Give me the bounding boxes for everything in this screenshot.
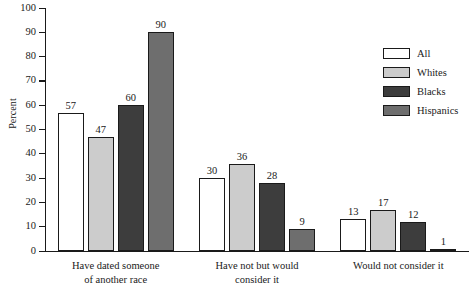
legend-label: All — [417, 48, 430, 59]
y-axis-tick-label: 40 — [6, 148, 36, 158]
bar — [88, 137, 114, 251]
bar — [430, 249, 456, 251]
bar — [58, 113, 84, 252]
bar-value-label: 90 — [142, 19, 180, 30]
bar-value-label: 12 — [394, 209, 432, 220]
x-axis-category-label: Have not but wouldconsider it — [177, 259, 337, 286]
legend-label: Hispanics — [417, 105, 458, 116]
bar-value-label: 9 — [283, 216, 321, 227]
bar-chart: Percent 0102030405060708090100 574760903… — [0, 0, 473, 292]
legend-item: All — [383, 45, 471, 62]
bar-value-label: 47 — [82, 124, 120, 135]
category-label-line: Have not but would — [177, 259, 337, 273]
x-axis-category-label: Have dated someoneof another race — [36, 259, 196, 286]
y-axis-title: Percent — [7, 74, 18, 154]
bar — [118, 105, 144, 251]
bar-value-label: 1 — [424, 236, 462, 247]
legend-item: Blacks — [383, 83, 471, 100]
bar — [400, 222, 426, 251]
y-axis-tick-label: 80 — [6, 51, 36, 61]
bar — [259, 183, 285, 251]
y-axis-tick-label: 60 — [6, 100, 36, 110]
bar-value-label: 13 — [334, 206, 372, 217]
legend-label: Blacks — [417, 86, 446, 97]
legend-item: Hispanics — [383, 102, 471, 119]
bar-value-label: 17 — [364, 197, 402, 208]
bar — [370, 210, 396, 251]
category-label-line: Would not consider it — [318, 259, 473, 273]
y-axis-tick-label: 90 — [6, 27, 36, 37]
legend-swatch — [383, 105, 410, 116]
y-axis-tick-label: 20 — [6, 197, 36, 207]
category-label-line: Have dated someone — [36, 259, 196, 273]
bar — [340, 219, 366, 251]
y-axis-tick-label: 0 — [6, 246, 36, 256]
bar — [229, 164, 255, 251]
legend-swatch — [383, 86, 410, 97]
bar-value-label: 57 — [52, 100, 90, 111]
y-axis-tick-label: 70 — [6, 75, 36, 85]
bar-value-label: 36 — [223, 151, 261, 162]
category-label-line: consider it — [177, 273, 337, 287]
legend: AllWhitesBlacksHispanics — [383, 45, 471, 121]
y-axis-tick-label: 50 — [6, 124, 36, 134]
x-axis-line — [45, 251, 469, 252]
bar-value-label: 60 — [112, 92, 150, 103]
bar — [289, 229, 315, 251]
y-axis-tick-label: 30 — [6, 173, 36, 183]
category-label-line: of another race — [36, 273, 196, 287]
bar — [199, 178, 225, 251]
y-axis-tick-label: 10 — [6, 221, 36, 231]
y-axis-tick-label: 100 — [6, 3, 36, 13]
legend-item: Whites — [383, 64, 471, 81]
bar-value-label: 28 — [253, 170, 291, 181]
legend-label: Whites — [417, 67, 447, 78]
x-axis-category-label: Would not consider it — [318, 259, 473, 273]
bar — [148, 32, 174, 251]
legend-swatch — [383, 67, 410, 78]
bar-value-label: 30 — [193, 165, 231, 176]
legend-swatch — [383, 48, 410, 59]
